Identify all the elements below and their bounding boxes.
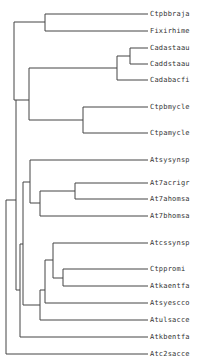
leaf-label: Ctppromi — [150, 265, 185, 273]
leaf-label: Ctpbmycle — [150, 103, 190, 111]
leaf-label: Atulsacce — [150, 316, 190, 324]
tree-branches — [6, 14, 148, 354]
leaf-label: Ctpbbraja — [150, 10, 190, 18]
leaf-label: Fixirhime — [150, 27, 190, 35]
leaf-label: At7acrigr — [150, 179, 190, 187]
leaf-label: Atsysynsp — [150, 156, 190, 164]
leaf-label: Atcssynsp — [150, 239, 190, 247]
leaf-label: Cadastaau — [150, 44, 190, 52]
leaf-label: Cadabacfi — [150, 76, 190, 84]
leaf-label: At7ahomsa — [150, 195, 190, 203]
leaf-label: Atkbentfa — [150, 333, 190, 341]
leaf-label: Ctpamycle — [150, 129, 190, 137]
leaf-label: At7bhomsa — [150, 212, 190, 220]
leaf-label: Caddstaau — [150, 60, 190, 68]
leaf-label: Atc2sacce — [150, 350, 190, 358]
leaf-label: Atsyescco — [150, 299, 190, 307]
leaf-label: Atkaentfa — [150, 282, 190, 290]
